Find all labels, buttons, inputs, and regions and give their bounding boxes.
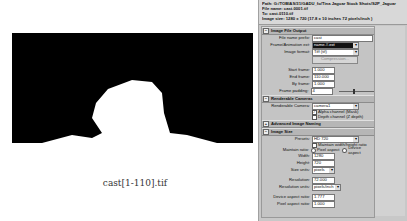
alpha-matte-render xyxy=(12,33,253,151)
width-input[interactable]: 1280 xyxy=(312,153,335,160)
start-frame-input[interactable]: 1.000 xyxy=(312,67,335,74)
device-aspect-ratio-input[interactable]: 1.777 xyxy=(312,194,335,201)
render-settings-header: Path: G:/TOBIAS/31/GADU_fo/Tina Jaguar S… xyxy=(259,0,407,25)
chevron-down-icon: ▾ xyxy=(353,104,358,109)
resolution-input[interactable]: 72.000 xyxy=(312,177,335,184)
slider-knob[interactable] xyxy=(353,89,355,94)
compression-button[interactable]: Compression... xyxy=(312,56,358,64)
section-advanced-image-naming[interactable]: + Advanced Image Naming xyxy=(262,120,374,128)
output-image-size: Image size: 1280 x 720 (17.8 x 10 inches… xyxy=(262,17,404,22)
silhouette-shape xyxy=(12,33,253,151)
presets-dropdown[interactable]: HD 720▾ xyxy=(312,136,359,143)
collapse-icon[interactable]: − xyxy=(263,28,269,34)
frame-padding-input[interactable]: 4 xyxy=(311,88,333,95)
file-name-prefix-input[interactable]: cast xyxy=(312,35,373,42)
depth-channel-checkbox[interactable] xyxy=(312,115,317,120)
collapse-icon[interactable]: − xyxy=(263,96,269,102)
chevron-down-icon: ▾ xyxy=(353,137,358,142)
renderable-camera-dropdown[interactable]: camera1▾ xyxy=(312,103,359,110)
section-image-file-output[interactable]: − Image File Output xyxy=(262,27,374,35)
chevron-down-icon: ▾ xyxy=(329,168,334,173)
height-input[interactable]: 720 xyxy=(312,160,335,167)
expand-icon[interactable]: + xyxy=(263,121,269,127)
end-frame-input[interactable]: 110.000 xyxy=(312,74,335,81)
resolution-units-dropdown[interactable]: pixels/inch▾ xyxy=(312,184,341,191)
section-image-size[interactable]: − Image Size xyxy=(262,128,374,136)
frame-animation-ext-dropdown[interactable]: name.#.ext▾ xyxy=(312,42,359,49)
by-frame-input[interactable]: 1.000 xyxy=(312,81,335,88)
render-settings-panel: Path: G:/TOBIAS/31/GADU_fo/Tina Jaguar S… xyxy=(258,0,407,221)
image-format-dropdown[interactable]: Tiff (tif)▾ xyxy=(312,49,359,56)
chevron-down-icon: ▾ xyxy=(353,43,358,48)
settings-body: − Image File Output File name prefix:cas… xyxy=(261,26,375,218)
frame-padding-slider[interactable] xyxy=(339,91,374,92)
pixel-aspect-ratio-input[interactable]: 1.000 xyxy=(312,201,335,208)
size-units-dropdown[interactable]: pixels▾ xyxy=(312,167,335,174)
figure-caption: cast[1-110].tif xyxy=(0,178,270,188)
collapse-icon[interactable]: − xyxy=(263,129,269,135)
chevron-down-icon: ▾ xyxy=(335,185,340,190)
chevron-down-icon: ▾ xyxy=(353,50,358,55)
panel-side-area xyxy=(375,26,405,216)
section-renderable-cameras[interactable]: − Renderable Cameras xyxy=(262,95,374,103)
